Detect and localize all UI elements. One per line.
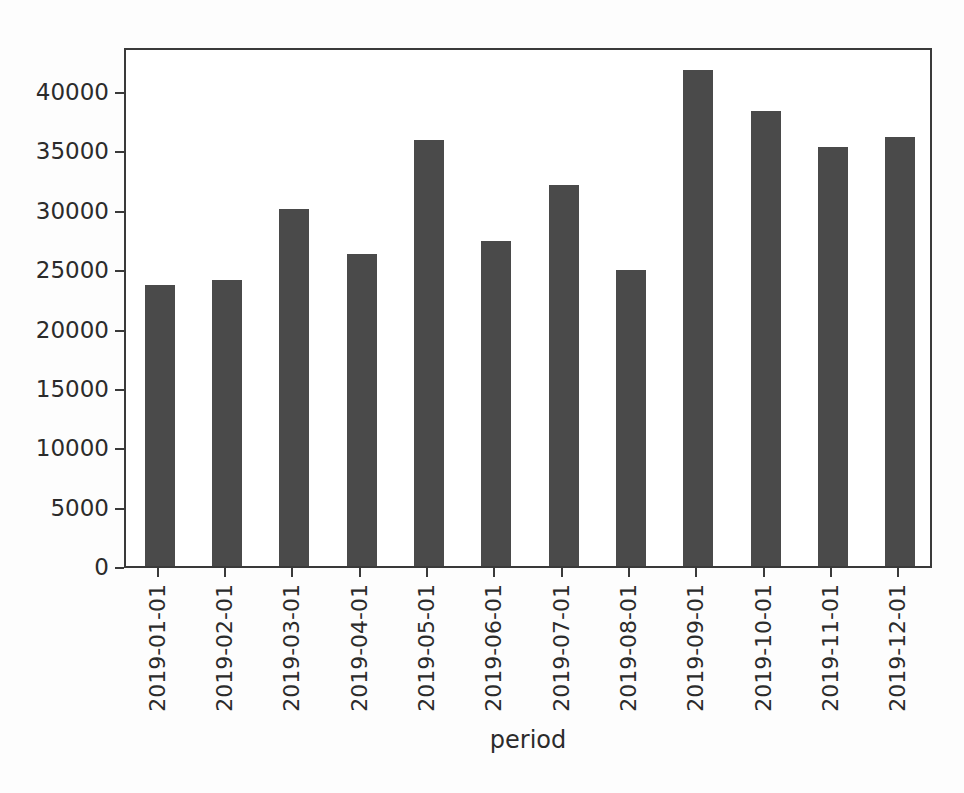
- bar: [683, 70, 713, 566]
- y-tick-label: 0: [19, 554, 109, 580]
- y-tick-label: 35000: [19, 138, 109, 164]
- x-tick-label: 2019-05-01: [415, 584, 439, 712]
- x-tick-label: 2019-06-01: [482, 584, 506, 712]
- x-tick-mark: [830, 568, 832, 577]
- plot-area: [126, 50, 930, 566]
- axes-frame: [124, 48, 932, 568]
- bar: [212, 280, 242, 566]
- y-tick-mark: [115, 151, 124, 153]
- x-tick-mark: [359, 568, 361, 577]
- x-tick-mark: [493, 568, 495, 577]
- x-tick-label: 2019-01-01: [146, 584, 170, 712]
- x-tick-label: 2019-09-01: [684, 584, 708, 712]
- bar: [347, 254, 377, 566]
- x-tick-mark: [763, 568, 765, 577]
- bar: [616, 270, 646, 566]
- x-tick-label: 2019-07-01: [550, 584, 574, 712]
- x-tick-mark: [426, 568, 428, 577]
- x-axis-label: period: [124, 726, 932, 754]
- x-tick-mark: [157, 568, 159, 577]
- y-tick-label: 40000: [19, 79, 109, 105]
- bar: [549, 185, 579, 566]
- x-tick-label: 2019-02-01: [213, 584, 237, 712]
- x-tick-label: 2019-04-01: [348, 584, 372, 712]
- y-tick-mark: [115, 330, 124, 332]
- x-tick-mark: [897, 568, 899, 577]
- y-tick-label: 25000: [19, 257, 109, 283]
- y-tick-label: 15000: [19, 376, 109, 402]
- x-tick-label: 2019-11-01: [819, 584, 843, 712]
- x-tick-mark: [695, 568, 697, 577]
- bar: [885, 137, 915, 566]
- bar: [279, 209, 309, 566]
- x-tick-mark: [224, 568, 226, 577]
- y-tick-mark: [115, 270, 124, 272]
- x-tick-label: 2019-10-01: [752, 584, 776, 712]
- x-tick-label: 2019-12-01: [886, 584, 910, 712]
- bar: [145, 285, 175, 566]
- y-tick-label: 10000: [19, 435, 109, 461]
- y-tick-mark: [115, 92, 124, 94]
- y-tick-mark: [115, 211, 124, 213]
- y-tick-mark: [115, 448, 124, 450]
- y-tick-mark: [115, 508, 124, 510]
- bar: [481, 241, 511, 566]
- x-tick-mark: [628, 568, 630, 577]
- y-tick-label: 20000: [19, 317, 109, 343]
- x-tick-mark: [291, 568, 293, 577]
- y-tick-mark: [115, 389, 124, 391]
- y-tick-mark: [115, 567, 124, 569]
- bar: [751, 111, 781, 566]
- bar: [414, 140, 444, 566]
- y-tick-label: 5000: [19, 495, 109, 521]
- x-tick-mark: [561, 568, 563, 577]
- figure: 0500010000150002000025000300003500040000…: [0, 0, 964, 793]
- x-tick-label: 2019-08-01: [617, 584, 641, 712]
- y-tick-label: 30000: [19, 198, 109, 224]
- bar: [818, 147, 848, 566]
- x-tick-label: 2019-03-01: [280, 584, 304, 712]
